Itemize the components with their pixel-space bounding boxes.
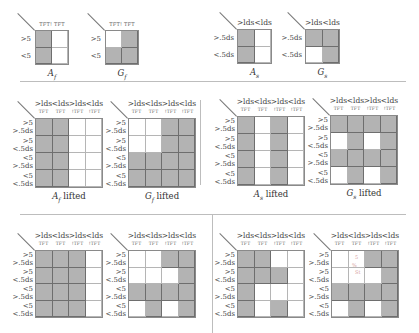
grid-cell [382, 284, 399, 301]
grid-cell [106, 31, 122, 48]
grid-cell [146, 284, 163, 301]
row-header: >5>.5ds [98, 119, 126, 135]
column-subheader: !TFT [86, 241, 103, 246]
grid-cell [332, 284, 349, 301]
column-subheader: TFT [145, 241, 162, 246]
column-subheader: !TFT [288, 241, 305, 246]
grid-cell [69, 268, 86, 285]
grid-cell [69, 136, 86, 153]
grid-cell [129, 301, 146, 318]
grid-cell [69, 251, 86, 268]
grid-cell [238, 284, 255, 301]
grid-cell [271, 117, 288, 134]
grid-cell [162, 268, 179, 285]
grid-bottom-r1 [237, 250, 305, 318]
row-header: >5>.5ds [207, 251, 235, 267]
divider-middle [20, 214, 406, 215]
grid-cell [52, 48, 68, 65]
grid-cell [36, 153, 53, 170]
grid-cell [255, 251, 272, 268]
grid-cell [36, 136, 53, 153]
grid-cell [162, 119, 179, 136]
grid-cell [53, 251, 70, 268]
grid-cell [179, 119, 196, 136]
row-header: <5<.5ds [207, 302, 235, 318]
grid-cell [36, 301, 53, 318]
grid-cell [122, 31, 138, 48]
row-header: <5<.5ds [300, 169, 328, 185]
row-header: >5 [15, 35, 31, 43]
panel-caption: Gs [295, 67, 350, 79]
grid-Gf-lifted [128, 118, 196, 188]
column-subheader: !TFT [179, 241, 196, 246]
column-subheader: TFT [52, 109, 69, 114]
grid-cell [129, 268, 146, 285]
grid-cell [53, 153, 70, 170]
column-header: <lds [176, 99, 199, 108]
grid-cell [364, 150, 381, 167]
panel-caption: As [227, 67, 282, 79]
grid-cell [271, 284, 288, 301]
column-subheader: TFT [128, 241, 145, 246]
row-header: >5>.5ds [300, 116, 328, 132]
column-header: >lds [237, 18, 255, 27]
column-subheader: !TFT [162, 241, 179, 246]
panel-caption: Gf [95, 68, 149, 80]
grid-cell [129, 170, 146, 187]
row-header: <5<.5ds [98, 302, 126, 318]
grid-cell [238, 47, 255, 64]
row-header: <5>.5ds [207, 152, 235, 168]
column-subheader: TFT [347, 106, 364, 111]
grid-cell [69, 170, 86, 187]
grid-Gs-lifted [330, 115, 398, 185]
grid-cell [365, 301, 382, 318]
column-subheader: TFT [35, 241, 52, 246]
grid-cell [179, 251, 196, 268]
grid-cell [53, 284, 70, 301]
column-subheader: !TFT [179, 109, 196, 114]
column-subheader: TFT [145, 109, 162, 114]
column-subheader: TFT [348, 241, 365, 246]
grid-cell [255, 117, 272, 134]
grid-cell [238, 268, 255, 285]
grid-cell [36, 31, 52, 48]
grid-cell [271, 151, 288, 168]
divider-top [20, 81, 406, 82]
grid-cell [69, 301, 86, 318]
grid-cell [53, 268, 70, 285]
column-subheader: !TFT [69, 241, 86, 246]
column-subheader: !TFT [381, 106, 398, 111]
row-header: >5>.5ds [5, 119, 33, 135]
column-header: <lds [378, 96, 401, 105]
grid-cell [238, 30, 255, 47]
grid-cell [53, 119, 70, 136]
grid-cell [179, 301, 196, 318]
grid-cell [382, 251, 399, 268]
grid-cell [129, 136, 146, 153]
row-header: <5<.5ds [207, 170, 235, 186]
grid-cell [381, 116, 398, 133]
grid-cell [122, 48, 138, 65]
grid-cell [365, 284, 382, 301]
corner-diagonal [287, 12, 305, 30]
column-subheader: TFT [237, 107, 254, 112]
grid-cell [271, 251, 288, 268]
grid-cell [364, 133, 381, 150]
row-header: >5<.5ds [207, 135, 235, 151]
grid-cell [146, 119, 163, 136]
row-header: <5>.5ds [5, 285, 33, 301]
grid-cell [162, 284, 179, 301]
grid-cell [146, 136, 163, 153]
row-header: <5<.5ds [5, 302, 33, 318]
grid-cell [381, 150, 398, 167]
column-header: <lds [285, 231, 308, 240]
row-header: >5<.5ds [5, 137, 33, 153]
grid-cell [162, 301, 179, 318]
grid-cell [255, 30, 272, 47]
row-header: >5<.5ds [207, 268, 235, 284]
grid-cell [332, 268, 349, 285]
grid-cell [364, 167, 381, 184]
grid-cell [323, 30, 340, 47]
grid-cell [255, 151, 272, 168]
grid-cell [332, 251, 349, 268]
